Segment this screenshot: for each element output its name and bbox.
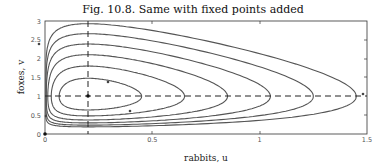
orbits (38, 24, 365, 127)
y-tick-label: 3 (37, 18, 41, 26)
x-tick-label: 0 (43, 136, 47, 144)
orbit-curve (59, 78, 141, 110)
y-tick-label: 1 (37, 93, 41, 101)
direction-arrow-icon (129, 110, 132, 113)
x-tick-labels: 00.511.5 (43, 136, 372, 144)
ticks (152, 21, 367, 134)
orbit-curve (46, 24, 356, 127)
phase-plot: 00.511.5 00.511.522.53 rabbits, u foxes,… (0, 0, 386, 167)
x-tick-label: 0.5 (147, 136, 157, 144)
y-tick-label: 1.5 (31, 74, 41, 82)
x-axis-label: rabbits, u (184, 153, 228, 163)
orbit-curve (46, 34, 313, 126)
orbit-curve (48, 55, 228, 120)
y-tick-label: 0.5 (31, 112, 41, 120)
x-tick-label: 1 (258, 136, 262, 144)
y-tick-label: 0 (37, 131, 41, 139)
fixed-point-coexistence (86, 94, 90, 98)
direction-arrow-icon (107, 81, 110, 84)
y-tick-labels: 00.511.522.53 (31, 18, 41, 139)
y-axis-label: foxes, v (16, 59, 26, 94)
orbit-curve (46, 44, 270, 123)
x-tick-label: 1.5 (362, 136, 372, 144)
direction-arrow-icon (45, 115, 48, 118)
y-tick-label: 2.5 (31, 36, 41, 44)
y-tick-label: 2 (37, 55, 41, 63)
direction-arrow-icon (362, 93, 365, 96)
